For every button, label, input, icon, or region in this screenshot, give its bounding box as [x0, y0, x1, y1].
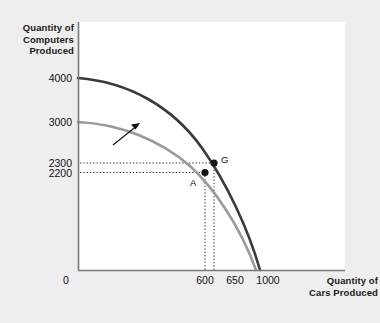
origin-label: 0 — [63, 274, 69, 286]
x-axis-title-line-2: Cars Produced — [286, 287, 378, 299]
y-tick-label-3000: 3000 — [26, 116, 72, 128]
chart-figure: Quantity of Computers Produced Quantity … — [0, 0, 380, 323]
marker-point-a[interactable] — [201, 169, 208, 176]
y-tick-label-2200: 2200 — [26, 167, 72, 179]
marker-point-g[interactable] — [210, 159, 217, 166]
y-axis-title: Quantity of Computers Produced — [2, 22, 74, 57]
x-tick-label-1000: 1000 — [248, 274, 288, 286]
y-axis-title-line-1: Quantity of — [2, 22, 74, 34]
curve-shifted-frontier — [78, 78, 260, 270]
x-axis-title-line-1: Quantity of — [286, 275, 378, 287]
y-tick-label-4000: 4000 — [26, 72, 72, 84]
x-axis-title: Quantity of Cars Produced — [286, 275, 378, 298]
y-axis-title-line-2: Computers — [2, 34, 74, 46]
point-a-label: A — [190, 177, 196, 188]
shift-arrow-head — [131, 123, 140, 130]
guide-lines-a — [80, 173, 205, 271]
y-axis-title-line-3: Produced — [2, 45, 74, 57]
point-g-label: G — [221, 154, 228, 165]
